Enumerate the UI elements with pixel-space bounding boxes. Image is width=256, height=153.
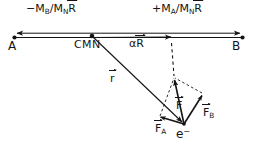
vector-r: [94, 38, 183, 123]
figure-canvas: −MB/MNR +MA/MNR A B CMN αR r F FA FB e−: [0, 0, 256, 153]
node-electron: [182, 122, 186, 126]
vector-diagram-svg: [0, 0, 256, 153]
label-position-vector: r: [110, 73, 115, 84]
label-center-of-mass: CMN: [74, 39, 101, 50]
label-force-b: FB: [203, 107, 214, 119]
label-right-segment: +MA/MNR: [152, 3, 202, 15]
vector-force-b: [184, 96, 202, 125]
dashed-parallelogram-side-b: [175, 78, 202, 93]
label-electron: e−: [176, 128, 190, 140]
label-nucleus-a: A: [8, 40, 16, 52]
dashed-projection-line: [172, 43, 175, 76]
node-nucleus-b: [240, 35, 244, 39]
label-force-resultant: F: [176, 100, 182, 111]
label-alpha-r: αR: [129, 38, 144, 49]
label-force-a: FA: [155, 123, 166, 135]
dashed-parallelogram-side-a: [160, 78, 174, 116]
label-nucleus-b: B: [232, 40, 240, 52]
label-left-segment: −MB/MNR: [26, 3, 76, 15]
